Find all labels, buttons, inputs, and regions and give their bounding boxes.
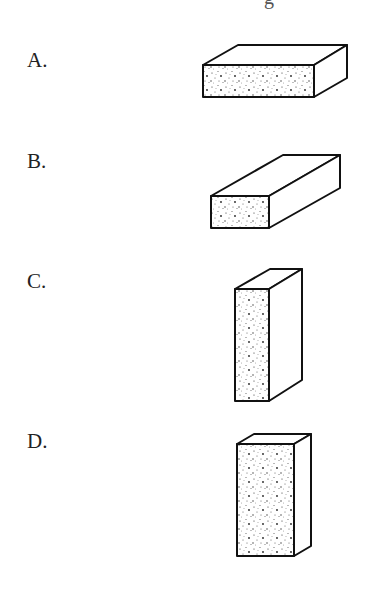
option-d-box-figure[interactable] [237, 434, 311, 556]
option-a-box-figure[interactable] [203, 45, 347, 97]
option-c-box-figure[interactable] [235, 269, 302, 401]
option-b-box-figure[interactable] [211, 155, 340, 228]
